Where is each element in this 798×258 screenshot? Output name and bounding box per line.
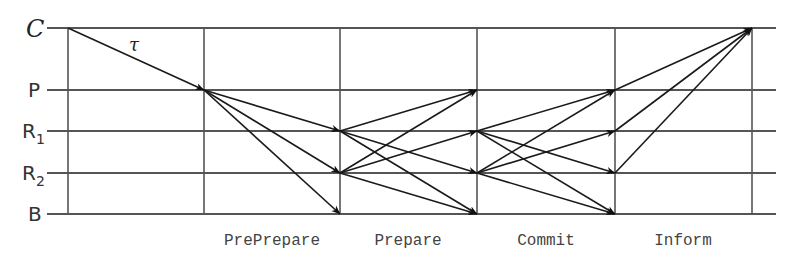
message-arrow-prepare-r1-to-p <box>340 90 477 131</box>
message-arrow-inform-r2-to-c <box>615 28 752 173</box>
node-label-replica-1: R1 <box>22 119 45 147</box>
replica-1-subscript: 1 <box>36 131 45 147</box>
message-arrow-inform-r1-to-c <box>615 28 752 131</box>
node-timelines <box>47 28 776 214</box>
message-arrow-prepare-r2-to-b <box>340 173 477 214</box>
message-arrow-inform-p-to-c <box>615 28 752 90</box>
node-label-client: C <box>26 15 44 43</box>
node-label-primary: P <box>28 78 40 102</box>
message-arrows <box>68 28 752 214</box>
replica-1-letter: R <box>22 119 36 143</box>
sequence-diagram: C P R1 R2 B τ PrePrepare Prepare Commit … <box>0 0 798 258</box>
phase-dividers <box>68 28 752 214</box>
replica-2-subscript: 2 <box>36 173 45 189</box>
node-label-replica-2: R2 <box>22 161 45 189</box>
message-arrow-commit-r1-to-p <box>477 90 615 131</box>
message-arrow-preprepare-p-to-r1 <box>204 90 340 131</box>
message-arrow-preprepare-p-to-b <box>204 90 340 214</box>
phase-label-prepare: Prepare <box>374 232 441 250</box>
phase-label-commit: Commit <box>517 232 575 250</box>
node-label-byzantine: B <box>28 202 42 226</box>
phase-label-preprepare: PrePrepare <box>224 232 320 250</box>
message-arrow-commit-r2-to-b <box>477 173 615 214</box>
replica-2-letter: R <box>22 161 36 185</box>
request-label-tau: τ <box>129 34 140 55</box>
phase-label-inform: Inform <box>654 232 712 250</box>
